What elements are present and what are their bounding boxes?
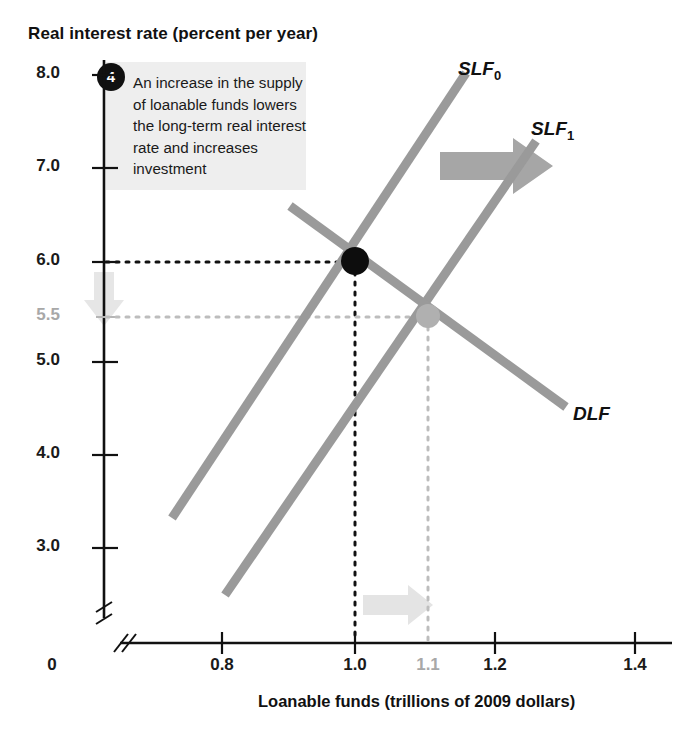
curve-label-slf1-sub: 1 (567, 128, 574, 143)
x-tick-label-0-8: 0.8 (192, 655, 252, 675)
x-tick-label-1-2: 1.2 (465, 655, 525, 675)
x-tick-label-1-0: 1.0 (325, 655, 385, 675)
curve-label-slf1: SLF1 (531, 118, 574, 143)
equilibrium-guides (106, 262, 428, 640)
new-equilibrium-point (416, 304, 440, 328)
curve-label-slf0: SLF0 (458, 58, 501, 83)
loanable-funds-market-figure: Real interest rate (percent per year) 4 … (0, 0, 683, 732)
x-tick-label-0: 0 (22, 655, 82, 675)
x-axis-title: Loanable funds (trillions of 2009 dollar… (258, 692, 575, 711)
initial-equilibrium-point (341, 247, 369, 275)
chart-canvas (0, 0, 683, 732)
y-tick-label-5: 5.0 (0, 350, 60, 370)
curve-label-dlf: DLF (573, 403, 610, 425)
y-tick-label-3: 3.0 (0, 536, 60, 556)
y-tick-label-5-5: 5.5 (0, 305, 60, 325)
curve-label-slf1-text: SLF (531, 118, 567, 139)
y-tick-label-4: 4.0 (0, 443, 60, 463)
y-tick-label-7: 7.0 (0, 156, 60, 176)
curve-label-slf0-sub: 0 (494, 68, 501, 83)
x-tick-label-1-1: 1.1 (398, 655, 458, 675)
x-tick-label-1-4: 1.4 (605, 655, 665, 675)
y-tick-label-6: 6.0 (0, 250, 60, 270)
funds-increase-arrow (363, 585, 433, 625)
y-tick-label-8: 8.0 (0, 63, 60, 83)
curve-label-slf0-text: SLF (458, 58, 494, 79)
